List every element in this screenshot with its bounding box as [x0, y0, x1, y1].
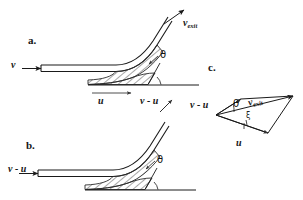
theta-label-a: θ	[160, 50, 166, 60]
theta-label-c: θ	[233, 99, 239, 109]
panel-b-diagram	[19, 100, 196, 190]
exit-velocity-arrow-a	[164, 10, 184, 24]
panel-a-label: a.	[28, 35, 36, 46]
relative-velocity-label-b-top: v - u	[140, 96, 158, 106]
blade-speed-label-a: u	[98, 96, 104, 106]
xi-label-c: ξ	[246, 112, 250, 120]
vector-u	[216, 115, 268, 133]
panel-a-diagram	[22, 10, 199, 93]
panel-b-label: b.	[26, 140, 35, 151]
theta-label-b: θ	[157, 155, 163, 165]
inlet-velocity-label-a: v	[11, 60, 15, 70]
vector-u-label: u	[236, 138, 242, 148]
vector-v-minus-u-label: v - u	[190, 100, 208, 110]
panel-c-label: c.	[208, 62, 216, 73]
exit-velocity-subscript-a: exit	[187, 22, 197, 29]
theta-arc-a	[157, 77, 161, 85]
inlet-velocity-label-b: v - u	[8, 164, 26, 174]
relative-velocity-leader-b	[160, 100, 172, 112]
theta-arc-b	[154, 182, 158, 190]
